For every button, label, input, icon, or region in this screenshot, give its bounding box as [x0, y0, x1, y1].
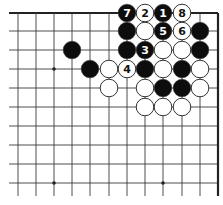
white-stone: [154, 41, 172, 59]
stones-layer: 72185634: [63, 4, 209, 116]
black-stone-icon: [136, 60, 154, 78]
white-stone: [136, 22, 154, 40]
black-stone-icon: [191, 22, 209, 40]
move-number: 2: [141, 7, 149, 20]
black-stone-5: 5: [154, 22, 172, 40]
move-number: 6: [178, 25, 186, 38]
white-stone: [136, 79, 154, 97]
black-stone-icon: [173, 79, 191, 97]
black-stone: [63, 41, 81, 59]
white-stone-icon: [154, 60, 172, 78]
black-stone-icon: [81, 60, 99, 78]
black-stone-3: 3: [136, 41, 154, 59]
white-stone-2: 2: [136, 4, 154, 22]
white-stone: [173, 41, 191, 59]
black-stone: [136, 60, 154, 78]
white-stone-icon: [173, 98, 191, 116]
white-stone: [136, 98, 154, 116]
black-stone-icon: [173, 60, 191, 78]
white-stone-icon: [100, 79, 118, 97]
black-stone: [191, 22, 209, 40]
black-stone: [154, 79, 172, 97]
star-point: [161, 181, 165, 185]
white-stone-icon: [173, 41, 191, 59]
white-stone-icon: [191, 60, 209, 78]
white-stone: [191, 79, 209, 97]
move-number: 7: [123, 7, 131, 20]
move-number: 4: [123, 63, 131, 76]
move-number: 1: [159, 7, 167, 20]
black-stone: [191, 41, 209, 59]
go-board: 72185634: [0, 0, 223, 205]
white-stone-4: 4: [118, 60, 136, 78]
white-stone-icon: [154, 98, 172, 116]
star-point: [52, 181, 56, 185]
black-stone: [173, 60, 191, 78]
white-stone-icon: [136, 98, 154, 116]
black-stone-icon: [191, 41, 209, 59]
white-stone: [191, 60, 209, 78]
white-stone-icon: [136, 79, 154, 97]
black-stone-icon: [118, 22, 136, 40]
black-stone: [173, 79, 191, 97]
white-stone: [154, 98, 172, 116]
star-point: [52, 67, 56, 71]
white-stone-icon: [154, 41, 172, 59]
black-stone-7: 7: [118, 4, 136, 22]
white-stone-icon: [136, 22, 154, 40]
black-stone-icon: [118, 41, 136, 59]
white-stone: [100, 60, 118, 78]
black-stone: [118, 22, 136, 40]
move-number: 8: [178, 7, 186, 20]
white-stone-icon: [100, 60, 118, 78]
black-stone-icon: [63, 41, 81, 59]
black-stone-icon: [154, 79, 172, 97]
black-stone: [81, 60, 99, 78]
white-stone: [100, 79, 118, 97]
white-stone-8: 8: [173, 4, 191, 22]
black-stone-1: 1: [154, 4, 172, 22]
white-stone: [154, 60, 172, 78]
white-stone-icon: [191, 79, 209, 97]
white-stone-6: 6: [173, 22, 191, 40]
white-stone: [173, 98, 191, 116]
black-stone: [118, 41, 136, 59]
move-number: 3: [141, 44, 149, 57]
move-number: 5: [159, 25, 167, 38]
